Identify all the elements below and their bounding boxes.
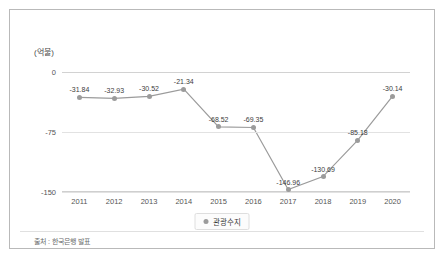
data-point-marker[interactable] [390,94,395,99]
y-axis-tick-label: -150 [41,188,56,197]
data-point-label: -69.35 [243,116,263,123]
gridline [62,192,410,193]
data-point-marker[interactable] [112,96,117,101]
x-axis-tick-label: 2019 [349,197,366,206]
x-axis-tick-label: 2017 [280,197,297,206]
data-point-label: -21.34 [174,78,194,85]
legend-label: 관광수지 [213,216,241,227]
data-point-label: -130.69 [311,166,335,173]
x-axis-tick-label: 2015 [210,197,227,206]
data-point-label: -68.52 [209,116,229,123]
data-point-marker[interactable] [181,87,186,92]
plot-area: 0-75-15020112012201320142015201620172018… [62,72,410,192]
data-point-label: -31.84 [69,86,89,93]
data-point-marker[interactable] [147,94,152,99]
data-point-label: -146.96 [276,179,300,186]
x-axis-tick-label: 2016 [245,197,262,206]
legend-circle-marker-icon [204,219,209,224]
x-axis-tick-label: 2013 [141,197,158,206]
x-axis-tick-label: 2012 [106,197,123,206]
data-point-marker[interactable] [251,125,256,130]
source-note: 출처 : 한국은행 발표 [34,236,90,246]
data-point-label: -30.14 [383,85,403,92]
data-point-marker[interactable] [77,95,82,100]
data-point-marker[interactable] [355,138,360,143]
x-axis-tick-label: 2011 [71,197,87,206]
y-axis-tick-label: 0 [52,68,56,77]
data-point-label: -30.52 [139,85,159,92]
data-point-marker[interactable] [321,174,326,179]
chart-legend[interactable]: 관광수지 [195,213,250,230]
source-divider [20,231,424,232]
x-axis-tick-label: 2014 [175,197,192,206]
data-point-label: -32.93 [104,87,124,94]
data-point-label: -85.18 [348,129,368,136]
x-axis-tick-label: 2020 [384,197,401,206]
x-axis-tick-label: 2018 [315,197,332,206]
data-point-marker[interactable] [286,187,291,192]
gridline [62,72,410,73]
y-axis-unit-label: (억불) [34,46,54,57]
y-axis-tick-label: -75 [45,128,56,137]
chart-frame: (억불) 0-75-150201120122013201420152016201… [9,9,435,249]
